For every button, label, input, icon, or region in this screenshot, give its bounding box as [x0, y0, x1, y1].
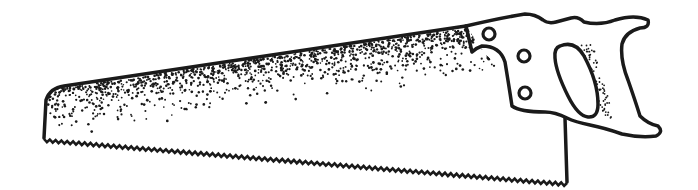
saw-teeth: [44, 139, 567, 186]
rivet-hole-3: [519, 87, 531, 99]
rivet-hole-2: [518, 50, 530, 62]
blade-heel: [565, 118, 567, 182]
grip-hole: [555, 44, 598, 117]
blade-stipple: [45, 27, 567, 133]
rivet-hole-1: [483, 28, 495, 40]
saw-drawing: [0, 0, 698, 190]
saw-illustration: [0, 0, 698, 190]
